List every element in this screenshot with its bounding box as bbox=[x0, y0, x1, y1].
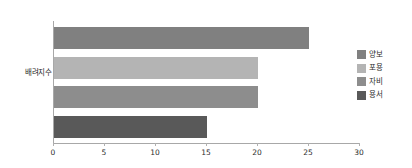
legend-swatch-icon bbox=[357, 50, 366, 59]
y-axis-label: 배려지수 bbox=[8, 66, 52, 77]
legend-item-양보[interactable]: 양보 bbox=[357, 48, 409, 61]
legend-label: 용서 bbox=[369, 91, 383, 99]
legend-swatch-icon bbox=[357, 77, 366, 86]
legend-swatch-icon bbox=[357, 64, 366, 73]
legend-item-자비[interactable]: 자비 bbox=[357, 75, 409, 88]
x-tick-label: 0 bbox=[51, 148, 56, 157]
legend-label: 양보 bbox=[369, 51, 383, 59]
bar-자비 bbox=[54, 86, 258, 108]
bar-양보 bbox=[54, 27, 309, 49]
x-tick-mark bbox=[104, 143, 105, 146]
legend-label: 자비 bbox=[369, 78, 383, 86]
bar-row bbox=[54, 54, 360, 84]
x-tick-mark bbox=[53, 143, 54, 146]
legend-label: 포용 bbox=[369, 64, 383, 72]
x-tick-label: 15 bbox=[201, 148, 211, 157]
x-tick-label: 20 bbox=[252, 148, 262, 157]
x-axis-ticks: 051015202530 bbox=[53, 143, 359, 165]
legend-item-포용[interactable]: 포용 bbox=[357, 62, 409, 75]
x-tick-mark bbox=[257, 143, 258, 146]
x-tick-mark bbox=[308, 143, 309, 146]
bars-group bbox=[54, 24, 360, 142]
bar-row bbox=[54, 24, 360, 54]
legend-item-용서[interactable]: 용서 bbox=[357, 89, 409, 102]
x-tick-mark bbox=[359, 143, 360, 146]
chart-legend: 양보포용자비용서 bbox=[357, 48, 409, 102]
x-tick-mark bbox=[155, 143, 156, 146]
legend-swatch-icon bbox=[357, 91, 366, 100]
x-tick-label: 30 bbox=[354, 148, 364, 157]
x-tick-label: 10 bbox=[150, 148, 160, 157]
bar-row bbox=[54, 83, 360, 113]
bar-row bbox=[54, 113, 360, 143]
x-tick-label: 25 bbox=[303, 148, 313, 157]
bar-포용 bbox=[54, 57, 258, 79]
bar-chart: 배려지수 051015202530 양보포용자비용서 bbox=[0, 0, 412, 168]
x-tick-mark bbox=[206, 143, 207, 146]
x-tick-label: 5 bbox=[102, 148, 107, 157]
bar-용서 bbox=[54, 116, 207, 138]
